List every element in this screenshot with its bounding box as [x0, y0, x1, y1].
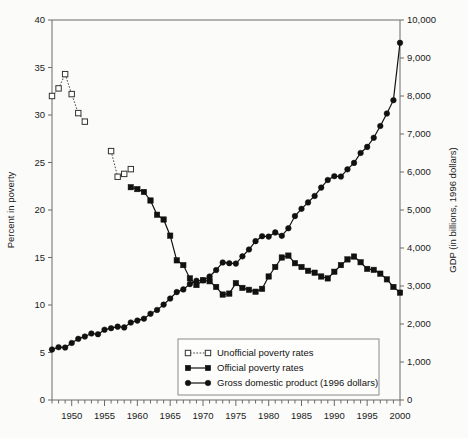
- series-1-marker: [312, 270, 317, 275]
- series-2-marker: [154, 307, 160, 313]
- series-2-marker: [174, 289, 180, 295]
- legend-label-0: Unofficial poverty rates: [217, 347, 314, 358]
- series-2-marker: [384, 111, 390, 117]
- y2-axis-title: GDP (in billions, 1996 dollars): [447, 147, 458, 273]
- y2-tick-label: 4,000: [407, 242, 431, 253]
- series-1-marker: [266, 274, 271, 279]
- series-2-marker: [194, 278, 200, 284]
- series-1-marker: [148, 198, 153, 203]
- series-2-marker: [397, 40, 403, 46]
- series-1-marker: [279, 255, 284, 260]
- series-1-marker: [292, 261, 297, 266]
- series-2-marker: [56, 344, 62, 350]
- series-2-marker: [161, 302, 167, 308]
- y2-tick-label: 7,000: [407, 128, 431, 139]
- series-1-marker: [135, 186, 140, 191]
- legend-label-1: Official poverty rates: [217, 362, 304, 373]
- series-2-marker: [220, 260, 226, 266]
- series-2-marker: [351, 160, 357, 166]
- y2-tick-label: 8,000: [407, 90, 431, 101]
- series-1-marker: [233, 280, 238, 285]
- series-0-marker: [49, 93, 54, 98]
- series-0-marker: [56, 86, 61, 91]
- series-2-marker: [108, 325, 114, 331]
- series-1-marker: [227, 291, 232, 296]
- x-tick-label: 1975: [225, 410, 246, 421]
- series-2-marker: [200, 278, 206, 284]
- legend-marker-2: [185, 380, 191, 386]
- series-2-marker: [207, 274, 213, 280]
- poverty-gdp-chart: 051015202530354001,0002,0003,0004,0005,0…: [0, 0, 468, 438]
- series-2-marker: [312, 193, 318, 199]
- series-0-marker: [115, 174, 120, 179]
- series-2-marker: [371, 135, 377, 141]
- y2-tick-label: 10,000: [407, 14, 436, 25]
- series-2-marker: [49, 347, 55, 353]
- series-2-marker: [391, 97, 397, 103]
- legend-marker-2: [205, 380, 211, 386]
- series-1-marker: [273, 264, 278, 269]
- series-2-marker: [121, 325, 127, 331]
- series-1-marker: [253, 289, 258, 294]
- y2-tick-label: 1,000: [407, 356, 431, 367]
- y-axis-title: Percent in poverty: [5, 171, 16, 248]
- series-1-marker: [286, 253, 291, 258]
- series-1-marker: [338, 262, 343, 267]
- y-tick-label: 10: [34, 299, 45, 310]
- series-1-marker: [351, 254, 356, 259]
- y2-tick-label: 6,000: [407, 166, 431, 177]
- series-1-marker: [187, 276, 192, 281]
- x-tick-label: 1990: [324, 410, 345, 421]
- y-tick-label: 5: [40, 347, 45, 358]
- series-2-marker: [69, 340, 75, 346]
- legend-label-2: Gross domestic product (1996 dollars): [217, 377, 378, 388]
- series-1-marker: [240, 285, 245, 290]
- series-0-line: [111, 151, 131, 177]
- y-tick-label: 0: [40, 394, 45, 405]
- series-2-marker: [181, 287, 187, 293]
- series-2-marker: [253, 238, 259, 244]
- y-tick-label: 40: [34, 14, 45, 25]
- series-2-marker: [82, 334, 88, 340]
- series-2-marker: [213, 267, 219, 273]
- series-2-marker: [102, 327, 108, 333]
- series-1-marker: [345, 257, 350, 262]
- series-1-marker: [371, 267, 376, 272]
- series-0-marker: [76, 110, 81, 115]
- y2-tick-label: 5,000: [407, 204, 431, 215]
- series-2-marker: [95, 331, 101, 337]
- series-2-marker: [141, 316, 147, 322]
- series-1-marker: [220, 292, 225, 297]
- series-1-marker: [397, 290, 402, 295]
- series-1-marker: [259, 286, 264, 291]
- series-2-marker: [226, 260, 232, 266]
- series-0-marker: [122, 171, 127, 176]
- y2-tick-label: 9,000: [407, 52, 431, 63]
- series-1-marker: [305, 268, 310, 273]
- series-1-marker: [384, 277, 389, 282]
- series-2-marker: [148, 311, 154, 317]
- series-1-marker: [174, 258, 179, 263]
- series-1-marker: [364, 266, 369, 271]
- series-0-marker: [69, 91, 74, 96]
- series-1-marker: [332, 269, 337, 274]
- series-1-marker: [319, 274, 324, 279]
- series-2-marker: [187, 281, 193, 287]
- series-1-marker: [391, 284, 396, 289]
- series-1-line: [131, 187, 400, 294]
- series-1-marker: [299, 264, 304, 269]
- series-2-marker: [279, 233, 285, 239]
- series-2-marker: [325, 177, 331, 183]
- series-2-marker: [299, 206, 305, 212]
- series-2-marker: [115, 324, 121, 330]
- legend-marker-1: [205, 365, 210, 370]
- series-1-marker: [141, 189, 146, 194]
- x-tick-label: 1980: [258, 410, 279, 421]
- chart-canvas: 051015202530354001,0002,0003,0004,0005,0…: [0, 0, 468, 438]
- series-2-marker: [318, 185, 324, 191]
- series-2-marker: [332, 173, 338, 179]
- series-2-marker: [338, 174, 344, 180]
- series-2-marker: [292, 213, 298, 219]
- series-2-marker: [62, 345, 68, 351]
- series-1-marker: [161, 217, 166, 222]
